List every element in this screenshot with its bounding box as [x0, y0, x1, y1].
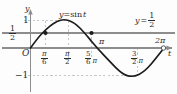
x-tick-three-halves-pi-symbol: π — [137, 58, 143, 66]
x-tick-pi-over-2-denominator: 2 — [64, 58, 70, 66]
sine-function-figure: y t O 1 2 1 −1 y=sint y = 1 2 π 6 π 2 5 … — [0, 0, 177, 94]
x-tick-two-pi: 2π — [155, 37, 165, 45]
origin-label: O — [22, 49, 29, 58]
y-axis-label: y — [25, 5, 30, 13]
x-tick-five-sixths-pi-symbol: π — [91, 58, 97, 66]
y-tick-one-half-numerator: 1 — [9, 25, 16, 33]
y-tick-one-half-denominator: 2 — [9, 33, 16, 42]
x-tick-pi-over-2-numerator: π — [64, 51, 71, 58]
y-tick-negative-one: −1 — [15, 71, 28, 80]
x-tick-two-pi-text: 2π — [155, 36, 165, 45]
level-line-label-equals: = — [141, 17, 149, 25]
y-tick-one: 1 — [23, 16, 29, 25]
x-tick-pi-over-6-denominator: 6 — [41, 58, 47, 66]
level-line-label: y = 1 2 — [135, 12, 155, 29]
level-line-label-numerator: 1 — [148, 12, 155, 20]
level-line-label-denominator: 2 — [148, 20, 155, 29]
x-tick-pi-over-2: π 2 — [64, 51, 71, 66]
x-tick-three-halves-pi-numerator: 3 — [131, 51, 137, 58]
x-tick-five-sixths-pi-numerator: 5 — [85, 51, 91, 58]
level-line-label-fraction: 1 2 — [148, 12, 155, 29]
x-tick-five-sixths-pi: 5 6 π — [85, 51, 97, 66]
marker-intersection-pi-over-6 — [43, 31, 47, 35]
x-tick-pi: π — [99, 38, 104, 46]
marker-open-endpoint-two-pi — [161, 46, 165, 50]
marker-intersection-five-sixths-pi — [89, 31, 93, 35]
x-tick-three-halves-pi: 3 2 π — [131, 51, 143, 66]
curve-label-argument: t — [82, 10, 86, 19]
curve-label-function: sin — [70, 10, 82, 19]
x-tick-pi-over-6-numerator: π — [41, 51, 48, 58]
t-axis-label: t — [168, 50, 171, 58]
x-tick-pi-over-6: π 6 — [41, 51, 48, 66]
y-tick-one-half: 1 2 — [9, 25, 16, 42]
curve-label: y=sint — [59, 11, 86, 19]
